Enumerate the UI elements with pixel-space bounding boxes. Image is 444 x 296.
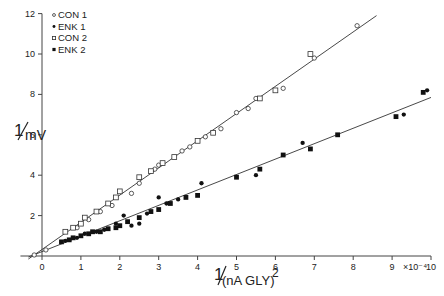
legend-item: CON 2 (52, 32, 87, 43)
legend-item: ENK 1 (53, 21, 86, 32)
x-tick-label: 8 (351, 262, 356, 272)
svg-text:mV: mV (25, 127, 47, 143)
svg-text:CON 1: CON 1 (58, 9, 87, 20)
svg-text:(nA GLY): (nA GLY) (222, 273, 275, 288)
y-tick-label: 2 (30, 211, 35, 221)
svg-text:ENK 2: ENK 2 (58, 44, 85, 55)
series-con-2 (63, 52, 313, 235)
x-tick-label: 3 (156, 262, 161, 272)
x-tick-label: 0 (39, 262, 44, 272)
svg-text:ENK 1: ENK 1 (58, 21, 85, 32)
svg-text:2: 2 (272, 266, 279, 280)
x-axis-label: 1 (nA GLY) 2 (214, 265, 279, 288)
svg-text:CON 2: CON 2 (58, 32, 87, 43)
y-tick-label: 4 (30, 170, 35, 180)
x-tick-label: 5 (234, 262, 239, 272)
scatter-chart: 01234567891024681012 CON 1ENK 1CON 2ENK … (0, 0, 444, 296)
x-multiplier: ×10⁻⁴ (403, 262, 427, 272)
y-tick-label: 10 (25, 49, 35, 59)
data-points (32, 24, 429, 258)
series-enk-1 (63, 88, 429, 243)
fit-lines (28, 16, 431, 259)
x-tick-label: 2 (117, 262, 122, 272)
x-tick-label: 4 (195, 262, 200, 272)
svg-text:1: 1 (14, 121, 23, 140)
y-tick-label: 8 (30, 89, 35, 99)
x-tick-label: 10 (426, 262, 436, 272)
legend-item: ENK 2 (52, 44, 85, 55)
x-tick-label: 9 (390, 262, 395, 272)
legend-item: CON 1 (53, 9, 87, 20)
y-tick-label: 12 (25, 9, 35, 19)
series-enk-2 (59, 90, 426, 244)
legend: CON 1ENK 1CON 2ENK 2 (52, 9, 87, 55)
x-tick-label: 7 (312, 262, 317, 272)
x-tick-label: 1 (78, 262, 83, 272)
